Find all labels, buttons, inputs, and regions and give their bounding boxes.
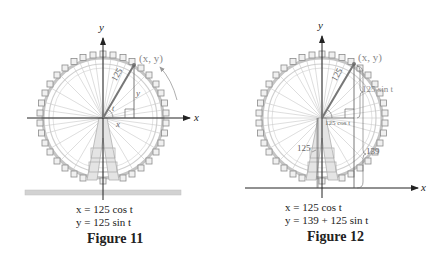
- opposite-side-label: y: [136, 88, 140, 98]
- angle-label: t: [112, 104, 114, 113]
- figure-11-equations: x = 125 cos t y = 125 sin t: [76, 203, 133, 229]
- y-axis-label: y: [318, 19, 323, 31]
- x-axis-label: x: [421, 181, 426, 193]
- figure-11-diagram: [25, 38, 190, 200]
- y-axis-label: y: [99, 21, 104, 33]
- figure-11-caption: Figure 11: [87, 231, 143, 247]
- cos-label: 125 cos t: [325, 119, 350, 127]
- figure-12-diagram: [245, 36, 418, 198]
- equation-y: y = 125 sin t: [76, 216, 133, 229]
- equation-y: y = 139 + 125 sin t: [285, 214, 368, 227]
- point-label: (x, y): [358, 51, 382, 63]
- adjacent-side-label: x: [116, 119, 120, 129]
- equation-x: x = 125 cos t: [285, 201, 368, 214]
- point-label: (x, y): [139, 52, 163, 64]
- equation-x: x = 125 cos t: [76, 203, 133, 216]
- left-height-label: 125: [297, 143, 311, 153]
- sin-label: 125 sin t: [362, 84, 393, 94]
- figure-12-caption: Figure 12: [307, 229, 364, 245]
- right-height-label: 139: [366, 146, 380, 156]
- x-axis-label: x: [194, 111, 199, 123]
- figure-12-equations: x = 125 cos t y = 139 + 125 sin t: [285, 201, 368, 227]
- figures-canvas: [0, 0, 439, 258]
